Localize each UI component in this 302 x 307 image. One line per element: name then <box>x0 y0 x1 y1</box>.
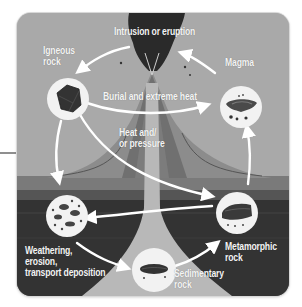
node-igneous-rock <box>47 78 89 120</box>
node-sediments <box>46 195 88 237</box>
node-metamorphic-rock <box>216 192 258 234</box>
label-igneous-rock: Igneous rock <box>43 45 75 67</box>
label-heat-and-or-pressure: Heat and/ or pressure <box>119 127 165 149</box>
node-sedimentary-rock <box>132 248 176 292</box>
label-magma: Magma <box>225 57 254 68</box>
rock-cycle-diagram: Intrusion or eruption Igneous rock Magma… <box>17 13 289 296</box>
leader-line <box>0 152 18 154</box>
label-intrusion-or-eruption: Intrusion or eruption <box>114 26 195 37</box>
label-weathering-erosion-transport: Weathering, erosion, transport depositio… <box>25 245 105 278</box>
node-magma <box>220 86 262 128</box>
label-sedimentary-rock: Sedimentary rock <box>174 268 224 290</box>
label-burial-and-extreme-heat: Burial and extreme heat <box>103 91 197 102</box>
label-metamorphic-rock: Metamorphic rock <box>225 241 277 263</box>
